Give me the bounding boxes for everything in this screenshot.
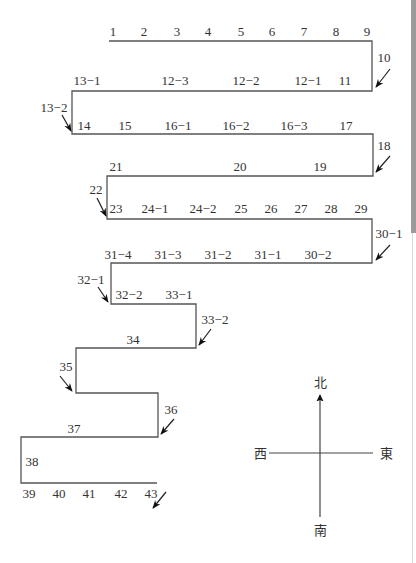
- station-label: 1: [110, 24, 117, 39]
- station-label: 12−2: [233, 73, 260, 88]
- station-label: 27: [295, 201, 309, 216]
- station-label: 43: [145, 486, 158, 501]
- station-label: 33−2: [202, 312, 229, 327]
- compass-north-label: 北: [314, 375, 327, 390]
- station-label: 31−3: [155, 247, 182, 262]
- station-label: 3: [174, 24, 181, 39]
- station-label: 18: [378, 138, 391, 153]
- station-label: 36: [165, 402, 179, 417]
- station-label: 7: [301, 24, 308, 39]
- station-label: 29: [355, 201, 368, 216]
- station-label: 42: [115, 486, 128, 501]
- compass-east-label: 東: [380, 446, 393, 461]
- station-label: 38: [26, 454, 39, 469]
- compass-west-label: 西: [254, 446, 267, 461]
- station-label: 26: [265, 201, 279, 216]
- station-label: 13−2: [41, 100, 68, 115]
- station-label: 32−2: [116, 287, 143, 302]
- direction-arrow-icon: [98, 287, 108, 302]
- direction-arrows: [60, 69, 390, 508]
- station-label: 15: [119, 118, 132, 133]
- station-label: 34: [127, 332, 141, 347]
- station-label: 37: [68, 421, 82, 436]
- station-label: 25: [235, 201, 248, 216]
- route-diagram: 1234567891013−112−312−212−11113−2141516−…: [0, 0, 416, 563]
- station-label: 40: [53, 486, 66, 501]
- station-label: 23: [110, 201, 123, 216]
- station-label: 35: [60, 359, 73, 374]
- station-label: 4: [205, 24, 212, 39]
- station-label: 24−1: [142, 201, 169, 216]
- direction-arrow-icon: [376, 245, 390, 260]
- station-label: 17: [340, 118, 354, 133]
- station-label: 20: [234, 159, 247, 174]
- station-label: 28: [325, 201, 338, 216]
- station-label: 2: [141, 24, 148, 39]
- station-label: 12−3: [162, 73, 189, 88]
- direction-arrow-icon: [376, 156, 390, 172]
- station-label: 5: [238, 24, 245, 39]
- station-label: 30−2: [305, 247, 332, 262]
- station-label: 10: [378, 50, 391, 65]
- station-label: 31−4: [105, 247, 132, 262]
- compass-south-label: 南: [314, 523, 327, 538]
- station-label: 16−1: [165, 118, 192, 133]
- direction-arrow-icon: [376, 69, 390, 87]
- station-label: 16−2: [223, 118, 250, 133]
- station-label: 31−1: [255, 247, 282, 262]
- compass: 北 西 東 南: [254, 375, 393, 538]
- direction-arrow-icon: [60, 376, 72, 391]
- station-label: 41: [83, 486, 96, 501]
- station-label: 24−2: [190, 201, 217, 216]
- direction-arrow-icon: [62, 115, 71, 131]
- direction-arrow-icon: [199, 329, 211, 345]
- station-label: 19: [314, 159, 327, 174]
- station-label: 33−1: [166, 287, 193, 302]
- station-label: 9: [364, 24, 371, 39]
- station-label: 13−1: [74, 73, 101, 88]
- station-label: 8: [333, 24, 340, 39]
- station-label: 30−1: [376, 226, 403, 241]
- station-label: 21: [110, 159, 123, 174]
- station-label: 11: [339, 73, 352, 88]
- station-label: 39: [23, 486, 36, 501]
- station-label: 12−1: [295, 73, 322, 88]
- station-label: 22: [90, 182, 103, 197]
- station-label: 6: [269, 24, 276, 39]
- station-label: 14: [78, 118, 92, 133]
- direction-arrow-icon: [97, 198, 106, 216]
- station-label: 31−2: [205, 247, 232, 262]
- station-label: 16−3: [281, 118, 308, 133]
- direction-arrow-icon: [161, 419, 174, 434]
- station-label: 32−1: [78, 272, 105, 287]
